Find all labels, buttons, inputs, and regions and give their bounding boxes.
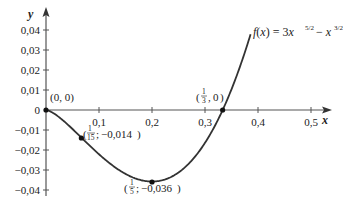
svg-text:;: ; [136, 182, 139, 194]
annotation-inflection: ( 1 15 ; −0,014 ) [83, 124, 141, 142]
svg-text:5/2: 5/2 [305, 24, 314, 32]
svg-text:− x: − x [316, 25, 332, 39]
chart-svg: x y 0,10,20,30,40,5 0,040,030,020,010−0,… [0, 0, 343, 212]
annotation-root: ( 1 3 , 0 ) [196, 87, 224, 105]
svg-text:f(x) = 3x: f(x) = 3x [253, 25, 294, 39]
y-tick-label: −0,01 [15, 124, 40, 136]
svg-text:15: 15 [87, 133, 95, 142]
x-tick-label: 0,3 [198, 116, 212, 128]
svg-text:5: 5 [130, 187, 134, 196]
y-tick-label: −0,02 [15, 144, 40, 156]
svg-text:): ) [137, 128, 141, 141]
svg-text:−0,014: −0,014 [101, 128, 132, 140]
x-tick-label: 0,4 [251, 116, 265, 128]
chart-figure: x y 0,10,20,30,40,5 0,040,030,020,010−0,… [0, 0, 343, 212]
svg-text:3: 3 [202, 96, 206, 105]
x-tick-label: 0,5 [304, 116, 318, 128]
x-axis-label: x [321, 113, 328, 127]
y-axis-label: y [26, 7, 34, 21]
function-curve [46, 34, 251, 181]
y-tick-label: −0,04 [15, 184, 41, 196]
y-tick-label: 0,04 [21, 24, 41, 36]
svg-text:,: , [208, 91, 211, 103]
svg-text:0: 0 [213, 91, 219, 103]
point-marker [220, 107, 225, 112]
point-marker [43, 107, 48, 112]
y-tick-label: 0 [35, 104, 41, 116]
svg-text:−0,036: −0,036 [141, 182, 172, 194]
function-label: f(x) = 3x 5/2 − x 3/2 [253, 24, 343, 39]
svg-text:1: 1 [88, 124, 92, 133]
y-tick-label: −0,03 [15, 164, 41, 176]
y-tick-label: 0,03 [21, 44, 41, 56]
x-tick-label: 0,1 [92, 116, 106, 128]
svg-text:(: ( [124, 182, 128, 195]
annotation-origin: (0, 0) [50, 91, 74, 104]
svg-text:1: 1 [130, 178, 134, 187]
svg-text:;: ; [96, 128, 99, 140]
y-tick-label: 0,01 [21, 84, 40, 96]
svg-text:): ) [177, 182, 181, 195]
y-tick-label: 0,02 [21, 64, 40, 76]
svg-text:(: ( [196, 91, 200, 104]
svg-text:3/2: 3/2 [334, 24, 343, 32]
x-tick-label: 0,2 [145, 116, 159, 128]
axes [46, 12, 326, 196]
svg-text:): ) [220, 91, 224, 104]
svg-text:1: 1 [202, 87, 206, 96]
